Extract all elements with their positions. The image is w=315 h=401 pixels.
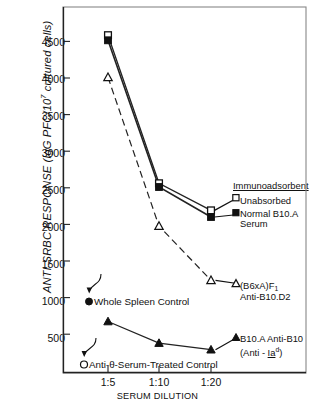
marker-open-triangle: [155, 222, 163, 230]
series-f1-markers: [104, 73, 215, 284]
marker-open-square: [208, 207, 215, 214]
marker-filled-square: [156, 184, 163, 191]
series-normal-serum-markers: [105, 37, 215, 221]
series-f1-anti-b10d2-line: [108, 77, 211, 280]
marker-filled-square: [105, 37, 112, 44]
legend-marker-filled-triangle: [232, 334, 240, 341]
marker-open-triangle: [104, 73, 112, 81]
arrow-anti-theta-head: [82, 351, 87, 357]
marker-filled-triangle: [155, 339, 163, 347]
arrow-whole-spleen-head: [87, 288, 92, 294]
marker-open-triangle: [207, 276, 215, 284]
plot-frame: [63, 7, 306, 373]
legend-marker-filled-square: [233, 210, 239, 216]
marker-anti-theta-control: [81, 361, 88, 368]
marker-filled-triangle: [104, 317, 112, 325]
legend-marker-open-square: [233, 195, 239, 201]
marker-filled-square: [208, 214, 215, 221]
marker-whole-spleen-control: [86, 298, 93, 305]
